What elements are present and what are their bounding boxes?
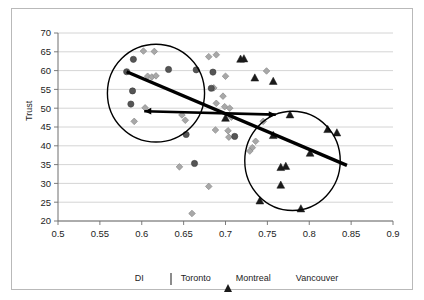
y-tick-label: 30	[40, 178, 51, 189]
chart-frame: Trust 20253035404550556065700.50.550.60.…	[11, 8, 413, 290]
data-point-toronto	[189, 210, 196, 217]
regression-line	[127, 72, 347, 166]
x-tick-label: 0.9	[386, 228, 399, 239]
legend-label-vancouver: Vancouver	[296, 273, 338, 283]
y-tick-label: 40	[40, 140, 51, 151]
arrowhead-right	[269, 111, 276, 118]
triangle-icon	[224, 274, 233, 283]
circle-icon	[284, 274, 293, 283]
data-point-montreal	[277, 181, 285, 188]
data-point-vancouver	[210, 69, 216, 75]
data-point-montreal	[333, 129, 341, 136]
data-point-vancouver	[129, 88, 135, 94]
legend-item-toronto[interactable]: Toronto	[169, 273, 211, 283]
x-tick-label: 0.85	[342, 228, 361, 239]
data-point-toronto	[212, 127, 219, 134]
data-point-montreal	[251, 74, 259, 81]
diamond-icon	[169, 274, 178, 283]
x-tick-label: 0.65	[174, 228, 193, 239]
data-point-vancouver	[165, 66, 171, 72]
data-point-vancouver	[208, 85, 214, 91]
legend-item-montreal[interactable]: Montreal	[224, 273, 271, 283]
y-tick-label: 45	[40, 121, 51, 132]
y-tick-label: 65	[40, 46, 51, 57]
data-point-toronto	[205, 183, 212, 190]
data-point-vancouver	[130, 56, 136, 62]
data-point-toronto	[222, 73, 229, 80]
y-tick-label: 55	[40, 84, 51, 95]
y-tick-label: 50	[40, 103, 51, 114]
right-cluster-ellipse	[245, 111, 340, 210]
data-point-montreal	[282, 162, 290, 169]
data-point-vancouver	[191, 160, 197, 166]
data-point-toronto	[252, 138, 259, 145]
data-point-toronto	[213, 52, 220, 59]
data-point-toronto	[131, 118, 138, 125]
y-tick-label: 35	[40, 159, 51, 170]
horizontal-trend-arrow	[144, 111, 275, 114]
data-point-toronto	[226, 134, 233, 141]
x-tick-label: 0.55	[91, 228, 110, 239]
legend-label-toronto: Toronto	[181, 273, 211, 283]
y-tick-label: 70	[40, 27, 51, 38]
data-point-vancouver	[232, 133, 238, 139]
legend-label-montreal: Montreal	[236, 273, 271, 283]
y-tick-label: 60	[40, 65, 51, 76]
x-tick-label: 0.6	[135, 228, 148, 239]
x-axis-title: DI	[135, 273, 144, 283]
y-tick-label: 20	[40, 215, 51, 226]
data-point-toronto	[140, 48, 147, 55]
data-point-vancouver	[128, 101, 134, 107]
y-tick-label: 25	[40, 197, 51, 208]
data-point-toronto	[220, 93, 227, 100]
x-tick-label: 0.75	[258, 228, 277, 239]
data-point-toronto	[151, 48, 158, 55]
data-point-toronto	[225, 127, 232, 134]
scatter-plot-canvas: 20253035404550556065700.50.550.60.650.70…	[12, 9, 414, 291]
data-point-toronto	[205, 53, 212, 60]
x-tick-label: 0.5	[51, 228, 64, 239]
x-tick-label: 0.8	[303, 228, 316, 239]
chart-legend: DI Toronto Montreal Vancouver	[69, 267, 404, 289]
x-tick-label: 0.7	[219, 228, 232, 239]
data-point-toronto	[263, 68, 270, 75]
data-point-toronto	[182, 117, 189, 124]
data-point-toronto	[213, 100, 220, 107]
legend-item-vancouver[interactable]: Vancouver	[284, 273, 338, 283]
data-point-montreal	[269, 77, 277, 84]
